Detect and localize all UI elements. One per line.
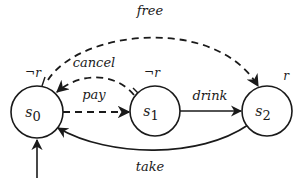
- transition-pay-label: pay: [82, 87, 106, 102]
- state-s1-label-tick: [133, 88, 138, 93]
- state-s2: s2 r: [242, 69, 292, 136]
- state-s1-prop-label: ¬r: [144, 66, 161, 80]
- state-s0-prop-label: ¬r: [25, 66, 42, 80]
- state-s1-subscript: 1: [150, 108, 158, 123]
- transition-take-label: take: [136, 159, 165, 174]
- state-s0: s0 ¬r: [11, 66, 63, 138]
- state-s0-label-tick: [42, 77, 45, 86]
- state-s0-subscript: 0: [32, 109, 40, 124]
- state-s1: s1 ¬r: [130, 66, 180, 136]
- state-s2-name: s: [255, 103, 262, 119]
- state-s0-name: s: [25, 104, 32, 120]
- state-diagram: free cancel pay drink take s0 ¬r s1 ¬r s…: [0, 0, 301, 180]
- transition-drink-label: drink: [193, 88, 228, 103]
- state-s2-prop-label: r: [283, 69, 290, 83]
- transition-cancel-label: cancel: [73, 55, 116, 70]
- transition-free-label: free: [136, 3, 164, 18]
- state-s1-name: s: [143, 103, 150, 119]
- state-s2-subscript: 2: [262, 108, 270, 123]
